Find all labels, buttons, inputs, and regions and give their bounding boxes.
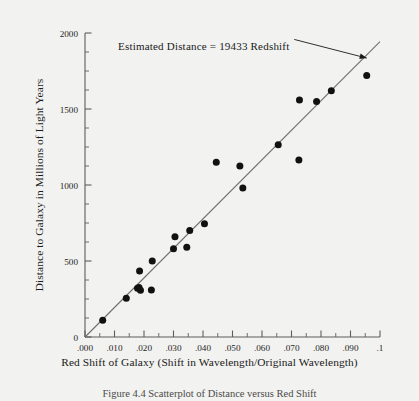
x-axis-tick-label: .000 xyxy=(77,343,93,353)
regression-line xyxy=(85,42,380,337)
x-axis-tick-label: .020 xyxy=(136,343,152,353)
x-axis-tick-label: .060 xyxy=(254,343,270,353)
data-point xyxy=(363,72,370,79)
x-axis-tick-label: .090 xyxy=(342,343,358,353)
data-point xyxy=(99,317,106,324)
y-axis-tick-label: 2000 xyxy=(60,29,79,39)
data-point xyxy=(170,245,177,252)
data-point xyxy=(296,96,303,103)
data-point xyxy=(137,287,144,294)
data-point xyxy=(295,156,302,163)
x-axis-tick-label: .010 xyxy=(106,343,122,353)
x-axis-title: Red Shift of Galaxy (Shift in Wavelength… xyxy=(0,356,419,368)
figure-container: 0500100015002000.000.010.020.030.040.050… xyxy=(0,0,419,401)
data-point xyxy=(171,233,178,240)
x-axis-tick-label: .030 xyxy=(165,343,181,353)
x-axis-tick-label: .050 xyxy=(224,343,240,353)
y-axis-tick-label: 1500 xyxy=(60,105,79,115)
data-point xyxy=(201,220,208,227)
data-point xyxy=(239,185,246,192)
data-point xyxy=(186,227,193,234)
data-point xyxy=(275,141,282,148)
data-point xyxy=(149,258,156,265)
scatter-plot: 0500100015002000.000.010.020.030.040.050… xyxy=(0,0,419,401)
data-point xyxy=(183,244,190,251)
x-axis-tick-label: .070 xyxy=(283,343,299,353)
y-axis-title: Distance to Galaxy in Millions of Light … xyxy=(33,35,51,335)
x-axis-tick-label: .1 xyxy=(377,343,384,353)
regression-equation-annotation: Estimated Distance = 19433 Redshift xyxy=(118,40,289,52)
x-axis-tick-label: .080 xyxy=(313,343,329,353)
data-point xyxy=(136,267,143,274)
data-point xyxy=(148,286,155,293)
x-axis-tick-label: .040 xyxy=(195,343,211,353)
plot-group: 0500100015002000.000.010.020.030.040.050… xyxy=(60,29,384,353)
data-point xyxy=(213,159,220,166)
figure-caption: Figure 4.4 Scatterplot of Distance versu… xyxy=(0,388,419,399)
data-point xyxy=(328,87,335,94)
data-point xyxy=(123,295,130,302)
y-axis-tick-label: 0 xyxy=(73,333,78,343)
data-point xyxy=(313,98,320,105)
y-axis-tick-label: 500 xyxy=(64,257,78,267)
annotation-arrow-line xyxy=(294,39,366,58)
y-axis-tick-label: 1000 xyxy=(60,181,79,191)
data-point xyxy=(236,163,243,170)
